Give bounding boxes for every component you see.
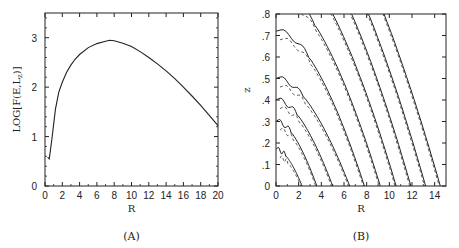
x-tick-label: 2 [296, 190, 302, 201]
dashed-contour [280, 0, 379, 186]
y-axis-label: z [241, 87, 252, 92]
x-tick-label: 10 [126, 190, 138, 201]
dashed-contour [280, 85, 349, 186]
x-tick-label: 0 [42, 190, 48, 201]
dashed-contour [280, 0, 395, 186]
y-tick-label: .4 [262, 95, 271, 106]
y-tick-label: 0 [264, 181, 270, 192]
solid-contour [276, 0, 380, 186]
x-tick-label: 16 [178, 190, 190, 201]
y-tick-label: .3 [262, 117, 271, 128]
x-axis-label: R [357, 203, 365, 214]
dashed-contour [280, 38, 363, 186]
solid-contour [276, 0, 426, 186]
x-tick-label: 18 [195, 190, 207, 201]
x-tick-label: 4 [77, 190, 83, 201]
y-tick-label: 3 [31, 33, 37, 44]
panel-a-label: (A) [123, 230, 140, 243]
figure: 024681012141618200123RLOG[F(E,Lz)](A)024… [0, 0, 459, 248]
y-tick-label: .8 [262, 9, 271, 20]
x-tick-label: 6 [94, 190, 100, 201]
x-tick-label: 10 [384, 190, 396, 201]
x-tick-label: 12 [406, 190, 418, 201]
y-tick-label: .2 [262, 138, 271, 149]
dashed-contour [280, 0, 410, 186]
x-axis-label: R [128, 203, 136, 214]
solid-contour [276, 77, 350, 186]
x-tick-label: 2 [60, 190, 66, 201]
panel-b-chart: 024681012140.1.2.3.4.5.6.7.8Rz(B) [241, 0, 446, 243]
x-tick-label: 0 [273, 190, 279, 201]
x-tick-label: 14 [429, 190, 441, 201]
dashed-contour [280, 107, 332, 186]
panel-b-label: (B) [353, 230, 370, 243]
y-tick-label: 0 [31, 181, 37, 192]
y-tick-label: 2 [31, 82, 37, 93]
log-f-curve [48, 40, 218, 159]
y-tick-label: .1 [262, 160, 271, 171]
solid-contour [276, 0, 396, 186]
contour-lines [276, 0, 440, 186]
y-axis-label: LOG[F(E,Lz)] [11, 66, 24, 132]
panel-a-chart: 024681012141618200123RLOG[F(E,Lz)](A) [11, 13, 224, 243]
x-tick-label: 4 [319, 190, 325, 201]
panel-a-frame [45, 13, 218, 186]
solid-contour [276, 0, 440, 186]
y-tick-label: .5 [262, 74, 271, 85]
x-tick-label: 8 [111, 190, 117, 201]
solid-contour [276, 98, 333, 186]
x-tick-label: 12 [143, 190, 155, 201]
x-tick-label: 8 [364, 190, 370, 201]
solid-contour [276, 0, 411, 186]
x-tick-label: 6 [341, 190, 347, 201]
y-tick-label: .7 [262, 31, 271, 42]
y-tick-label: .6 [262, 52, 271, 63]
x-tick-label: 14 [161, 190, 173, 201]
x-tick-label: 20 [212, 190, 224, 201]
dashed-contour [280, 156, 301, 186]
y-tick-label: 1 [31, 132, 37, 143]
